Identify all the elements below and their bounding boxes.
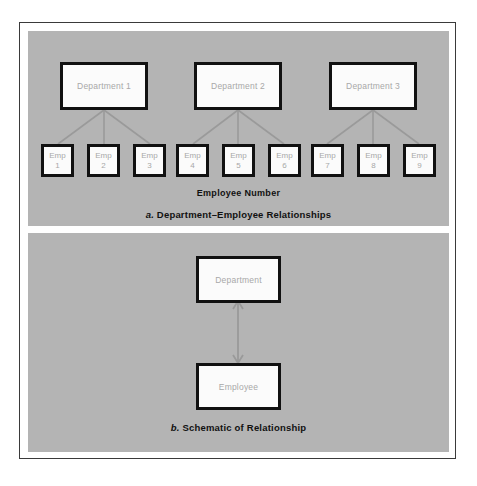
employee-box-5[interactable]: Emp 5	[222, 144, 255, 177]
department-box-3[interactable]: Department 3	[329, 62, 417, 110]
employee-box-3-label: Emp 3	[141, 151, 157, 171]
employee-box-5-label: Emp 5	[230, 151, 246, 171]
employee-box-4[interactable]: Emp 4	[176, 144, 209, 177]
employee-box-2-label: Emp 2	[95, 151, 111, 171]
employee-box-9-label: Emp 9	[411, 151, 427, 171]
employee-box-7-line1: Emp	[319, 151, 335, 160]
employee-box-7[interactable]: Emp 7	[311, 144, 344, 177]
employee-box-3-line1: Emp	[141, 151, 157, 160]
employee-box-6-line1: Emp	[276, 151, 292, 160]
employee-box-6[interactable]: Emp 6	[268, 144, 301, 177]
employee-box-9-line2: 9	[417, 161, 421, 170]
employee-box-3[interactable]: Emp 3	[133, 144, 166, 177]
employee-box-8[interactable]: Emp 8	[357, 144, 390, 177]
panel-a-caption-index: a.	[146, 209, 154, 220]
employee-box-1-line2: 1	[55, 161, 59, 170]
panel-a-caption-text: Department–Employee Relationships	[157, 209, 331, 220]
employee-box-1[interactable]: Emp 1	[41, 144, 74, 177]
schematic-employee-box-label: Employee	[219, 382, 258, 392]
department-box-3-label: Department 3	[346, 81, 400, 91]
employee-box-9[interactable]: Emp 9	[403, 144, 436, 177]
employee-box-9-line1: Emp	[411, 151, 427, 160]
panel-a-caption: a. Department–Employee Relationships	[28, 209, 449, 220]
employee-box-2-line1: Emp	[95, 151, 111, 160]
employee-box-8-line1: Emp	[365, 151, 381, 160]
panel-b-caption-index: b.	[171, 422, 180, 433]
employee-box-2[interactable]: Emp 2	[87, 144, 120, 177]
schematic-department-box[interactable]: Department	[196, 256, 281, 303]
employee-box-4-line1: Emp	[184, 151, 200, 160]
department-box-2[interactable]: Department 2	[194, 62, 282, 110]
schematic-employee-box[interactable]: Employee	[196, 363, 281, 410]
employee-box-5-line1: Emp	[230, 151, 246, 160]
panel-schematic-of-relationship: Department Employee b. Schematic of Rela…	[28, 233, 449, 452]
employee-box-5-line2: 5	[236, 161, 240, 170]
department-box-1-label: Department 1	[77, 81, 131, 91]
department-box-2-label: Department 2	[211, 81, 265, 91]
employee-box-8-label: Emp 8	[365, 151, 381, 171]
panel-department-employee-relationships: Department 1 Department 2 Department 3 E…	[28, 31, 449, 226]
employee-box-1-label: Emp 1	[49, 151, 65, 171]
department-box-1[interactable]: Department 1	[60, 62, 148, 110]
employee-box-7-line2: 7	[325, 161, 329, 170]
employee-box-3-line2: 3	[147, 161, 151, 170]
figure-frame: Department 1 Department 2 Department 3 E…	[19, 22, 456, 459]
employee-box-2-line2: 2	[101, 161, 105, 170]
employee-box-1-line1: Emp	[49, 151, 65, 160]
schematic-department-box-label: Department	[215, 275, 261, 285]
panel-b-caption: b. Schematic of Relationship	[28, 422, 449, 433]
employee-number-axis-label: Employee Number	[28, 188, 449, 198]
employee-box-8-line2: 8	[371, 161, 375, 170]
panel-b-caption-text: Schematic of Relationship	[182, 422, 306, 433]
employee-box-6-line2: 6	[282, 161, 286, 170]
employee-box-4-label: Emp 4	[184, 151, 200, 171]
employee-box-4-line2: 4	[190, 161, 194, 170]
employee-box-6-label: Emp 6	[276, 151, 292, 171]
employee-box-7-label: Emp 7	[319, 151, 335, 171]
